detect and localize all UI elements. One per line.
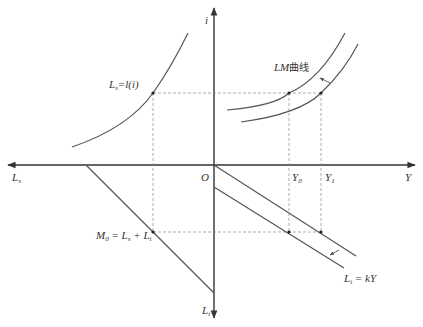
lm-curve-derivation-diagram: i Y O Ls Lt Ls=l(i) LM曲线 M0 = Ls + Lt Lt… xyxy=(0,0,423,327)
lm-curve-shifted xyxy=(241,44,358,122)
transaction-demand-line-original xyxy=(214,165,356,256)
origin-label: O xyxy=(201,171,209,183)
axis-label-lt: Lt xyxy=(201,304,211,318)
axis-label-y: Y xyxy=(405,171,413,183)
axis-label-i: i xyxy=(205,14,208,26)
speculative-demand-curve xyxy=(72,33,188,147)
point-ls xyxy=(151,91,154,94)
point-m0 xyxy=(151,230,154,233)
point-lt-y1 xyxy=(319,230,322,233)
label-speculative-demand: Ls=l(i) xyxy=(108,78,139,92)
point-lm-y1 xyxy=(319,91,322,94)
label-lm-curve: LM曲线 xyxy=(273,61,309,73)
label-y0: Y0 xyxy=(292,171,302,185)
lm-shift-arrow xyxy=(320,78,330,83)
transaction-demand-line-shifted xyxy=(214,187,344,268)
money-supply-line xyxy=(86,165,214,293)
axis-label-ls: Ls xyxy=(11,171,21,185)
point-lt-y0 xyxy=(287,230,290,233)
projection-lines xyxy=(153,93,321,232)
points xyxy=(151,91,322,233)
lt-shift-arrow xyxy=(330,250,339,255)
label-y1: Y1 xyxy=(325,171,335,185)
point-lm-y0 xyxy=(287,91,290,94)
label-transaction-demand: Lt = kY xyxy=(343,272,378,286)
label-money-supply: M0 = Ls + Lt xyxy=(95,229,153,243)
